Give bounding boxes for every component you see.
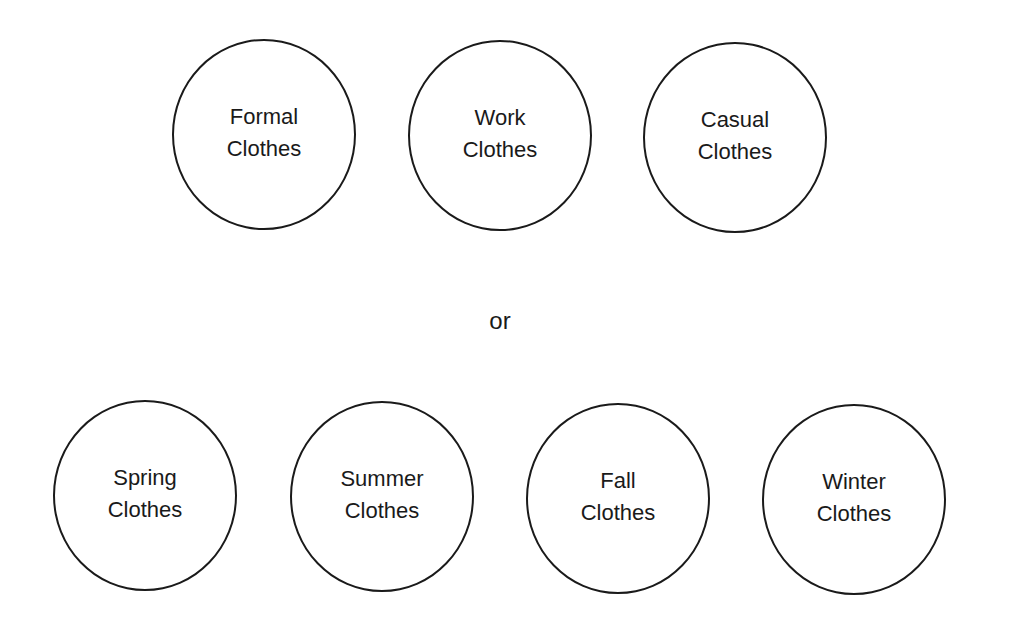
circle-label-line2: Clothes (108, 494, 183, 526)
circle-label-line1: Summer (340, 463, 423, 495)
circle-label-line1: Spring (113, 462, 177, 494)
circle-label-line2: Clothes (463, 134, 538, 166)
circle-formal-clothes: Formal Clothes (172, 39, 356, 230)
circle-summer-clothes: Summer Clothes (290, 401, 474, 592)
circle-label-line1: Work (475, 102, 526, 134)
circle-work-clothes: Work Clothes (408, 40, 592, 231)
circle-fall-clothes: Fall Clothes (526, 403, 710, 594)
circle-label-line2: Clothes (581, 497, 656, 529)
circle-label-line1: Casual (701, 104, 769, 136)
circle-label-line1: Fall (600, 465, 635, 497)
circle-label-line1: Winter (822, 466, 886, 498)
circle-winter-clothes: Winter Clothes (762, 404, 946, 595)
circle-label-line2: Clothes (817, 498, 892, 530)
circle-label-line2: Clothes (227, 133, 302, 165)
circle-label-line2: Clothes (345, 495, 420, 527)
circle-casual-clothes: Casual Clothes (643, 42, 827, 233)
or-connector-label: or (480, 306, 520, 336)
circle-label-line1: Formal (230, 101, 298, 133)
circle-label-line2: Clothes (698, 136, 773, 168)
circle-spring-clothes: Spring Clothes (53, 400, 237, 591)
